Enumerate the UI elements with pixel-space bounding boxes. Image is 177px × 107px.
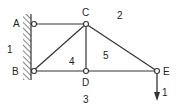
- truss-joints: [32, 22, 160, 74]
- wall-support: [23, 14, 31, 80]
- node-label-b: B: [12, 66, 19, 77]
- region-label-4: 4: [69, 56, 75, 67]
- region-label-1: 1: [7, 44, 13, 55]
- member-bc: [33, 24, 86, 71]
- node-label-a: A: [13, 18, 20, 29]
- truss-members: [33, 24, 157, 71]
- region-label-2: 2: [117, 10, 123, 21]
- joint-b: [32, 69, 37, 74]
- load-arrow-icon: [154, 74, 160, 101]
- load-label: 1: [162, 87, 168, 98]
- member-ce: [86, 24, 157, 71]
- region-label-3: 3: [83, 94, 89, 105]
- joint-d: [84, 69, 89, 74]
- node-label-c: C: [82, 7, 89, 18]
- joint-a: [32, 22, 37, 27]
- joint-e: [155, 69, 160, 74]
- joint-c: [84, 22, 89, 27]
- node-label-e: E: [163, 66, 170, 77]
- node-label-d: D: [82, 77, 89, 88]
- truss-diagram: A B C D E 1 2 3 4 5 1: [0, 0, 177, 107]
- region-label-5: 5: [103, 50, 109, 61]
